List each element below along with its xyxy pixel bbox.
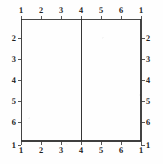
axis-label-left-2: 2 [7,34,16,43]
axis-label-bottom-3: 3 [56,146,66,155]
axis-label-right-2: 2 [146,34,155,43]
axis-label-bottom-6: 6 [116,146,126,155]
axis-label-bottom-1: 1 [16,146,26,155]
axis-label-top-2: 2 [36,6,46,15]
axis-label-right-1: 1 [146,141,155,150]
tick-mark-left-3 [18,59,22,60]
tick-mark-left-6 [18,122,22,123]
tick-mark-top-2 [41,16,42,20]
axis-label-top-5: 5 [96,6,106,15]
axis-label-left-3: 3 [7,55,16,64]
axis-label-top-3: 3 [56,6,66,15]
axis-label-left-5: 5 [7,97,16,106]
axis-label-right-6: 6 [146,118,155,127]
tick-mark-top-4 [81,16,82,20]
axis-label-top-1: 1 [136,6,146,15]
axis-label-right-3: 3 [146,55,155,64]
axis-label-left-1: 1 [7,141,16,150]
tick-mark-left-4 [18,80,22,81]
axis-label-right-4: 4 [146,76,155,85]
tick-mark-top-1 [21,16,22,20]
figure-root: 1234561 1234561 234561 234561 [0,0,163,164]
frame-edge-left [21,19,22,141]
tick-mark-left-2 [18,38,22,39]
axis-label-bottom-4: 4 [76,146,86,155]
axis-label-bottom-2: 2 [36,146,46,155]
axis-label-left-6: 6 [7,118,16,127]
tick-mark-top-6 [121,16,122,20]
axis-label-right-5: 5 [146,97,155,106]
tick-mark-top-1 [141,16,142,20]
tick-mark-right-5 [141,101,145,102]
tick-mark-top-5 [101,16,102,20]
tick-mark-right-3 [141,59,145,60]
axis-label-left-4: 4 [7,76,16,85]
axis-label-bottom-1: 1 [136,146,146,155]
tick-mark-right-6 [141,122,145,123]
center-divider-line [81,19,83,141]
axis-label-top-6: 6 [116,6,126,15]
tick-mark-right-4 [141,80,145,81]
tick-mark-right-2 [141,38,145,39]
axis-label-top-4: 4 [76,6,86,15]
axis-label-bottom-5: 5 [96,146,106,155]
tick-mark-top-3 [61,16,62,20]
axis-label-top-1: 1 [16,6,26,15]
tick-mark-left-5 [18,101,22,102]
